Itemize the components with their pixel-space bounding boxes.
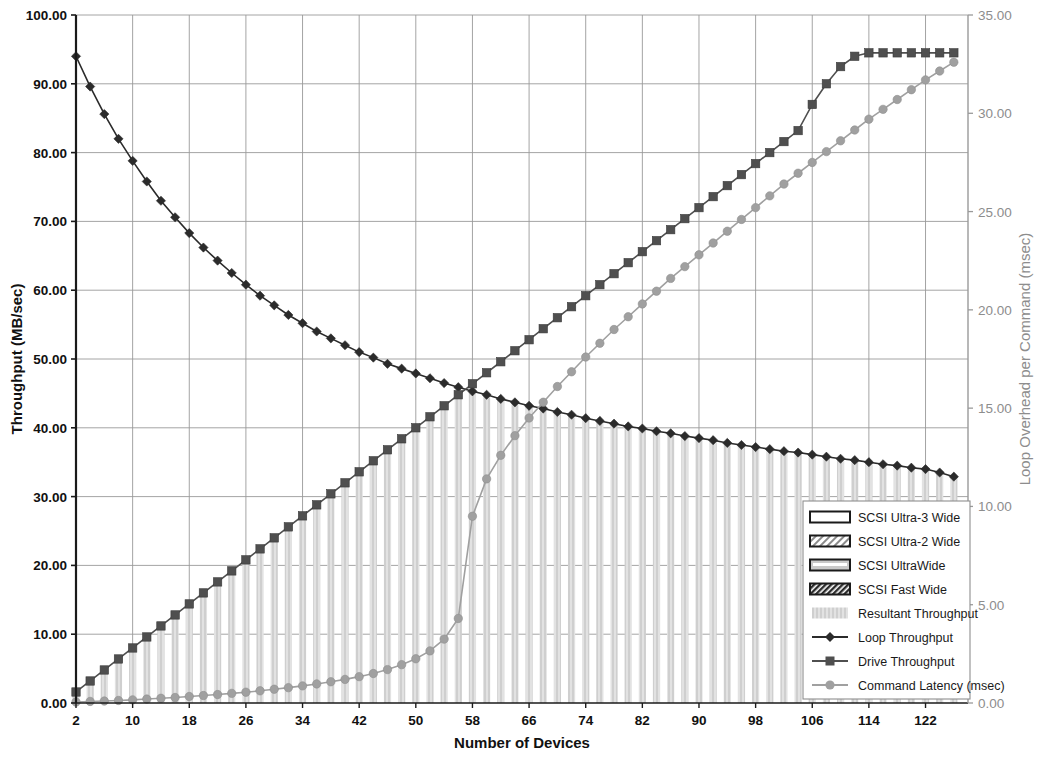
y2-tick-label: 15.00	[978, 401, 1012, 416]
y-tick-label: 90.00	[33, 77, 67, 92]
chart-legend: SCSI Ultra-3 WideSCSI Ultra-2 WideSCSI U…	[803, 501, 1005, 699]
legend-label: Command Latency (msec)	[858, 679, 1005, 693]
x-tick-label: 42	[352, 713, 367, 728]
y-tick-label: 40.00	[33, 421, 67, 436]
legend-item: Resultant Throughput	[812, 607, 979, 621]
x-tick-label: 66	[522, 713, 538, 728]
y-tick-label: 0.00	[41, 696, 67, 711]
x-tick-label: 26	[238, 713, 254, 728]
chart-container: 0.0010.0020.0030.0040.0050.0060.0070.008…	[0, 0, 1048, 758]
y2-axis-title: Loop Overhead per Command (msec)	[1016, 233, 1033, 486]
y2-tick-label: 30.00	[978, 106, 1012, 121]
legend-label: SCSI Ultra-2 Wide	[858, 535, 960, 549]
x-tick-label: 50	[408, 713, 423, 728]
y-tick-label: 60.00	[33, 283, 67, 298]
y2-tick-label: 35.00	[978, 8, 1012, 23]
y2-tick-label: 20.00	[978, 303, 1012, 318]
y-tick-label: 100.00	[26, 8, 67, 23]
y2-tick-label: 10.00	[978, 499, 1012, 514]
y-axis-title: Throughput (MB/sec)	[8, 284, 25, 435]
x-tick-label: 82	[635, 713, 650, 728]
legend-item: SCSI Ultra-3 Wide	[810, 511, 960, 525]
y2-tick-label: 0.00	[978, 696, 1004, 711]
x-tick-label: 18	[182, 713, 198, 728]
legend-item: SCSI Ultra-2 Wide	[810, 535, 960, 549]
x-axis-title: Number of Devices	[454, 734, 590, 751]
y2-tick-label: 5.00	[978, 598, 1004, 613]
legend-box	[803, 501, 970, 699]
y-tick-label: 10.00	[33, 627, 67, 642]
legend-label: SCSI UltraWide	[858, 559, 946, 573]
legend-item: SCSI UltraWide	[810, 559, 946, 573]
legend-label: SCSI Fast Wide	[858, 583, 947, 597]
y-tick-label: 70.00	[33, 214, 67, 229]
legend-swatch-scsi-ultra2	[810, 536, 850, 547]
legend-label: Loop Throughput	[858, 631, 954, 645]
legend-marker-square-icon	[826, 657, 835, 666]
legend-label: Resultant Throughput	[858, 607, 979, 621]
x-tick-label: 74	[578, 713, 594, 728]
x-tick-label: 114	[858, 713, 880, 728]
x-tick-label: 122	[914, 713, 937, 728]
y-tick-label: 20.00	[33, 558, 67, 573]
legend-swatch-stripe	[813, 563, 847, 566]
legend-marker-circle-icon	[825, 680, 834, 689]
legend-swatch-resultant	[812, 608, 848, 619]
legend-label: SCSI Ultra-3 Wide	[858, 511, 960, 525]
y-tick-label: 80.00	[33, 146, 67, 161]
x-tick-label: 2	[72, 713, 80, 728]
x-tick-label: 10	[125, 713, 140, 728]
y-tick-label: 30.00	[33, 490, 67, 505]
legend-item: SCSI Fast Wide	[810, 583, 947, 597]
legend-swatch-scsi-ultra3	[810, 512, 850, 523]
x-tick-label: 58	[465, 713, 481, 728]
scsi-throughput-chart: 0.0010.0020.0030.0040.0050.0060.0070.008…	[0, 0, 1048, 758]
x-tick-label: 106	[801, 713, 824, 728]
x-tick-label: 98	[748, 713, 764, 728]
y-tick-label: 50.00	[33, 352, 67, 367]
x-tick-label: 34	[295, 713, 311, 728]
legend-label: Drive Throughput	[858, 655, 955, 669]
x-tick-label: 90	[691, 713, 706, 728]
legend-swatch-scsi-fastwide	[810, 584, 850, 595]
y2-tick-label: 25.00	[978, 205, 1012, 220]
